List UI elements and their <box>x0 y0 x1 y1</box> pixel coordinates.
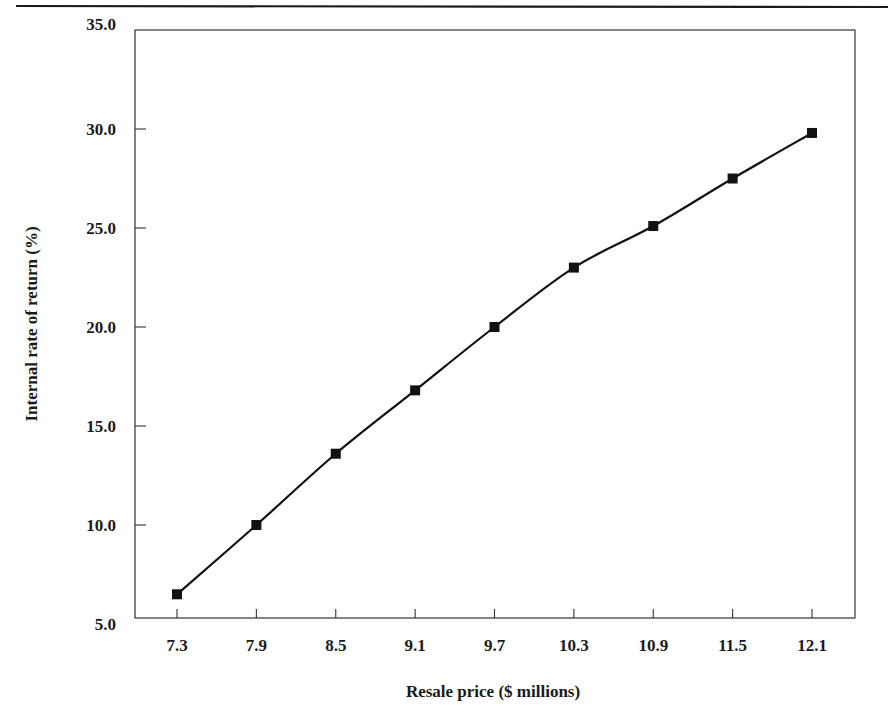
data-point-square-marker <box>569 263 579 273</box>
series-layer <box>172 128 817 599</box>
data-point-square-marker <box>172 589 182 599</box>
x-tick-label: 8.5 <box>325 636 346 655</box>
x-tick-label: 10.9 <box>638 636 668 655</box>
data-point-square-marker <box>331 449 341 459</box>
data-point-square-marker <box>410 385 420 395</box>
x-tick-label: 7.3 <box>166 636 187 655</box>
data-point-square-marker <box>807 128 817 138</box>
series-line <box>177 133 812 594</box>
x-tick-label: 11.5 <box>718 636 747 655</box>
data-point-square-marker <box>251 520 261 530</box>
x-tick-label: 12.1 <box>797 636 827 655</box>
y-tick-label: 10.0 <box>86 516 116 535</box>
y-axis-title: Internal rate of return (%) <box>22 226 41 421</box>
data-point-square-marker <box>648 221 658 231</box>
y-axis: 5.010.015.020.025.030.035.0 <box>86 15 146 634</box>
y-tick-label: 30.0 <box>86 120 116 139</box>
y-tick-label: 5.0 <box>95 615 116 634</box>
y-tick-label: 15.0 <box>86 417 116 436</box>
x-tick-label: 9.7 <box>484 636 506 655</box>
data-point-square-marker <box>728 174 738 184</box>
x-tick-label: 9.1 <box>405 636 426 655</box>
y-tick-label: 20.0 <box>86 318 116 337</box>
x-tick-label: 7.9 <box>246 636 267 655</box>
y-tick-label: 35.0 <box>86 15 116 34</box>
y-tick-label: 25.0 <box>86 219 116 238</box>
x-axis: 7.37.98.59.19.710.310.911.512.1 <box>166 609 827 655</box>
chart-figure: 5.010.015.020.025.030.035.0 7.37.98.59.1… <box>0 0 888 722</box>
line-chart: 5.010.015.020.025.030.035.0 7.37.98.59.1… <box>0 0 888 722</box>
top-rule-divider <box>16 6 888 7</box>
data-point-square-marker <box>490 322 500 332</box>
x-axis-title: Resale price ($ millions) <box>406 682 580 701</box>
x-tick-label: 10.3 <box>559 636 589 655</box>
